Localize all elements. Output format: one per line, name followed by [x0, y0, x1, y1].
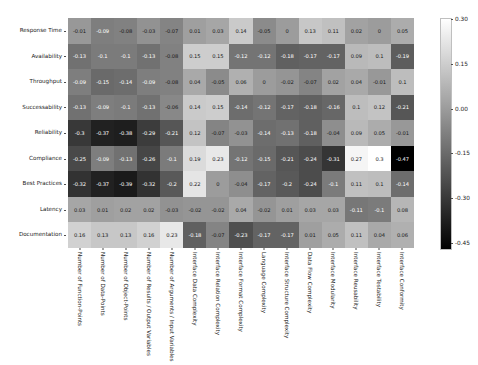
heatmap-cell: -0.23: [229, 222, 252, 248]
heatmap-cell-value: -0.04: [327, 130, 340, 136]
heatmap-cell: 0: [368, 18, 391, 44]
heatmap-cell-value: -0.03: [142, 28, 155, 34]
x-tick-label: Interface Conformity: [399, 252, 405, 310]
heatmap-cell: -0.03: [137, 18, 160, 44]
heatmap-cell: -0.09: [91, 18, 114, 44]
x-tick-mark: [333, 248, 334, 250]
y-tick-mark: [64, 210, 66, 211]
heatmap-cell-value: 0.03: [305, 207, 316, 213]
heatmap-cell: -0.11: [345, 197, 368, 223]
heatmap-cell-value: -0.09: [73, 79, 86, 85]
x-tick-label: Interface Modularity: [330, 252, 336, 309]
heatmap-cell: 0.12: [368, 95, 391, 121]
heatmap-cell: 0.03: [68, 197, 91, 223]
heatmap-cell: -0.21: [160, 120, 183, 146]
heatmap-cell-value: 0.02: [351, 28, 362, 34]
heatmap-cell-value: -0.26: [142, 156, 155, 162]
heatmap-cell-value: -0.14: [235, 104, 248, 110]
y-axis-tick-labels: Response TimeAvailabilityThroughputSucce…: [0, 18, 66, 248]
heatmap-cell-value: -0.47: [396, 156, 409, 162]
heatmap-cell-value: 0.19: [189, 156, 200, 162]
heatmap-cell-value: -0.37: [96, 181, 109, 187]
heatmap-cell-value: -0.1: [375, 207, 385, 213]
heatmap-cell-value: -0.13: [142, 104, 155, 110]
heatmap-cell-value: 0.27: [351, 156, 362, 162]
heatmap-cell: -0.14: [253, 120, 276, 146]
heatmap-cell: 0.14: [183, 95, 206, 121]
heatmap-cell: 0: [276, 18, 299, 44]
heatmap-cell: -0.07: [206, 120, 229, 146]
heatmap-cell-value: -0.2: [167, 181, 177, 187]
heatmap-cell: -0.1: [322, 171, 345, 197]
x-tick-group: Interface Structure Complexity: [276, 248, 299, 360]
heatmap-cell: 0.04: [368, 222, 391, 248]
heatmap-cell: -0.24: [299, 146, 322, 172]
heatmap-cell-value: 0.05: [397, 28, 408, 34]
heatmap-cell: 0.09: [345, 44, 368, 70]
x-tick-mark: [402, 248, 403, 250]
x-tick-group: Interface Reusability: [345, 248, 368, 360]
heatmap-cell-value: -0.31: [327, 156, 340, 162]
heatmap-cell: -0.17: [276, 222, 299, 248]
x-tick-label: Interface Format Complexity: [238, 252, 244, 332]
heatmap-cell-value: -0.21: [165, 130, 178, 136]
heatmap-cell: 0.15: [206, 44, 229, 70]
x-tick-label: Number of Data-Points: [100, 252, 106, 316]
y-tick-label: Compliance: [29, 146, 62, 172]
heatmap-cell-value: -0.11: [350, 207, 363, 213]
heatmap-cell-value: -0.24: [304, 181, 317, 187]
heatmap-cell-value: 0.02: [143, 207, 154, 213]
x-tick-label: Data Flow Complexity: [307, 252, 313, 313]
heatmap-cell-value: -0.17: [281, 104, 294, 110]
x-tick-mark: [148, 248, 149, 250]
heatmap-cell: -0.21: [391, 95, 414, 121]
x-tick-group: Interface Conformity: [391, 248, 414, 360]
heatmap-cell-value: 0.11: [351, 232, 362, 238]
heatmap-cell: -0.39: [114, 171, 137, 197]
heatmap-cell: -0.19: [391, 44, 414, 70]
heatmap-cell: -0.09: [91, 146, 114, 172]
heatmap-cell-value: -0.03: [235, 130, 248, 136]
heatmap-cell-value: -0.09: [96, 104, 109, 110]
x-tick-mark: [287, 248, 288, 250]
heatmap-cell: -0.1: [114, 95, 137, 121]
x-tick-group: Number of Arguments / Input Variables: [160, 248, 183, 360]
heatmap-cell: -0.14: [391, 171, 414, 197]
heatmap-cell-value: 0: [378, 28, 381, 34]
y-tick-mark: [64, 235, 66, 236]
heatmap-cell: -0.07: [160, 18, 183, 44]
x-tick-group: Interface Modularity: [322, 248, 345, 360]
heatmap-cell: 0.09: [345, 120, 368, 146]
heatmap-cell: -0.06: [160, 95, 183, 121]
heatmap-cell-value: -0.39: [119, 181, 132, 187]
heatmap-cell: -0.2: [160, 171, 183, 197]
heatmap-cell-value: 0.12: [189, 130, 200, 136]
heatmap-cell-value: 0.04: [235, 207, 246, 213]
heatmap-cell-value: 0.01: [97, 207, 108, 213]
heatmap-cell: -0.17: [299, 44, 322, 70]
colorbar: 0.300.150.00-0.15-0.30-0.45: [440, 18, 452, 250]
heatmap-cell: -0.32: [137, 171, 160, 197]
heatmap-cell-value: 0.06: [397, 232, 408, 238]
heatmap-cell: -0.18: [183, 222, 206, 248]
heatmap-cell-value: -0.14: [258, 130, 271, 136]
heatmap-cell: -0.02: [276, 69, 299, 95]
heatmap-cell-value: -0.16: [327, 104, 340, 110]
heatmap-cell-value: -0.15: [258, 156, 271, 162]
heatmap-cell: 0.13: [299, 18, 322, 44]
heatmap-cell: 0.04: [345, 69, 368, 95]
heatmap-cell-value: 0.1: [398, 79, 406, 85]
x-tick-label: Number of Function-Points: [77, 252, 83, 326]
heatmap-cell: -0.29: [137, 120, 160, 146]
heatmap-cell: -0.1: [160, 146, 183, 172]
heatmap-cell-value: -0.07: [211, 232, 224, 238]
heatmap-cell: 0.3: [368, 146, 391, 172]
heatmap-cell: -0.09: [91, 95, 114, 121]
heatmap-cell: -0.17: [322, 44, 345, 70]
heatmap-cell-value: -0.13: [142, 53, 155, 59]
heatmap-cell: 0.02: [114, 197, 137, 223]
heatmap-cell-value: -0.02: [211, 207, 224, 213]
heatmap-cell: -0.25: [68, 146, 91, 172]
heatmap-cell-value: -0.1: [98, 53, 108, 59]
heatmap-cell: -0.08: [160, 44, 183, 70]
